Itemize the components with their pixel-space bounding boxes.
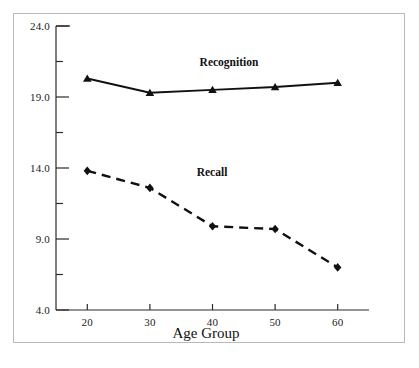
x-axis-ticks bbox=[87, 304, 337, 310]
series-label-recognition: Recognition bbox=[200, 56, 259, 68]
data-point-marker bbox=[84, 167, 91, 176]
y-axis-tick-label: 14.0 bbox=[14, 162, 50, 174]
y-axis-tick-label: 24.0 bbox=[14, 20, 50, 32]
data-point-marker bbox=[146, 184, 153, 193]
data-point-marker bbox=[83, 74, 92, 81]
data-point-marker bbox=[209, 222, 216, 231]
data-point-marker bbox=[334, 263, 341, 272]
data-point-marker bbox=[271, 225, 278, 234]
series-line-recall bbox=[87, 171, 337, 268]
x-axis-title: Age Group bbox=[56, 325, 356, 342]
series-label-recall: Recall bbox=[197, 166, 228, 178]
y-axis-tick-label: 4.0 bbox=[14, 304, 50, 316]
series-recall bbox=[84, 167, 342, 272]
y-axis-ticks bbox=[56, 26, 69, 310]
y-axis-tick-label: 9.0 bbox=[14, 233, 50, 245]
figure-caption bbox=[16, 357, 406, 367]
series-recognition bbox=[83, 74, 342, 95]
y-axis-tick-label: 19.0 bbox=[14, 91, 50, 103]
